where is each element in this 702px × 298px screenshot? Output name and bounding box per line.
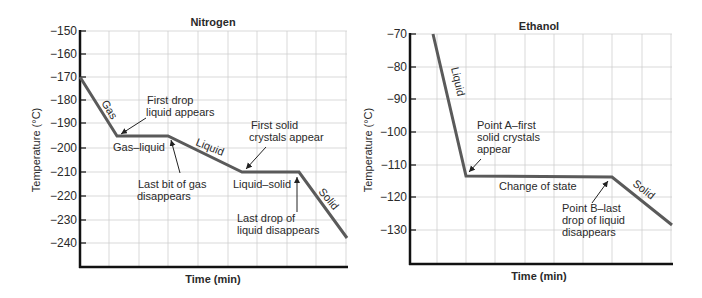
svg-text:−130: −130 xyxy=(380,223,407,237)
ethanol-y-tick-labels: −70 −80 −90 −100 −110 −120 −130 xyxy=(380,27,407,237)
svg-text:−160: −160 xyxy=(50,47,77,61)
svg-text:−170: −170 xyxy=(50,70,77,84)
ethanol-title: Ethanol xyxy=(519,20,559,32)
ethanol-x-label: Time (min) xyxy=(511,270,567,282)
annotation-first-drop-line1: First drop xyxy=(147,94,193,106)
annotation-last-gas-line2: disappears xyxy=(137,190,191,202)
phase-gas-label: Gas xyxy=(99,98,120,122)
annotation-first-solid-line1: First solid xyxy=(251,119,298,131)
annotation-last-liquid-line2: liquid disappears xyxy=(237,224,320,236)
arrow-last-gas xyxy=(171,140,180,173)
svg-text:−230: −230 xyxy=(50,213,77,227)
svg-text:−100: −100 xyxy=(380,125,407,139)
annotation-point-a-line3: appear xyxy=(477,143,512,155)
annotation-first-solid-line2: crystals appear xyxy=(249,131,324,143)
annotation-last-liquid-line1: Last drop of xyxy=(237,212,296,224)
svg-text:−70: −70 xyxy=(387,27,408,41)
change-of-state-label: Change of state xyxy=(499,180,577,192)
phase-liquid-label: Liquid xyxy=(194,136,226,158)
arrow-first-solid xyxy=(246,147,266,169)
ethanol-cooling-curve xyxy=(433,34,672,225)
nitrogen-title: Nitrogen xyxy=(190,16,236,28)
annotation-first-drop-line2: liquid appears xyxy=(146,106,215,118)
phase-gas-liquid-label: Gas–liquid xyxy=(113,141,165,153)
svg-text:−80: −80 xyxy=(387,60,408,74)
phase-liquid-label-ethanol: Liquid xyxy=(449,66,467,97)
svg-text:−180: −180 xyxy=(50,93,77,107)
nitrogen-y-label: Temperature (°C) xyxy=(30,108,42,192)
nitrogen-chart: −150 −160 −170 −180 −190 −200 −210 −220 … xyxy=(30,16,348,285)
phase-change-charts: −150 −160 −170 −180 −190 −200 −210 −220 … xyxy=(0,0,702,298)
svg-text:−120: −120 xyxy=(380,190,407,204)
annotation-point-a-line1: Point A–first xyxy=(477,119,536,131)
svg-text:−240: −240 xyxy=(50,236,77,250)
svg-text:−190: −190 xyxy=(50,116,77,130)
annotation-point-b-line2: drop of liquid xyxy=(562,214,625,226)
phase-liquid-solid-label: Liquid–solid xyxy=(233,178,291,190)
svg-text:−110: −110 xyxy=(381,158,407,172)
annotation-last-gas-line1: Last bit of gas xyxy=(138,178,207,190)
annotation-point-b-line3: disappears xyxy=(562,226,616,238)
ethanol-chart: −70 −80 −90 −100 −110 −120 −130 Ethanol … xyxy=(362,20,673,282)
phase-solid-label-ethanol: Solid xyxy=(631,177,658,202)
svg-text:−220: −220 xyxy=(50,189,77,203)
nitrogen-cooling-curve xyxy=(80,77,347,238)
svg-text:−90: −90 xyxy=(387,92,408,106)
annotation-point-b-line1: Point B–last xyxy=(562,202,621,214)
svg-text:−210: −210 xyxy=(50,165,77,179)
arrow-first-drop xyxy=(121,118,146,134)
ethanol-y-label: Temperature (°C) xyxy=(362,108,374,192)
nitrogen-x-label: Time (min) xyxy=(185,273,241,285)
svg-text:−200: −200 xyxy=(50,141,77,155)
arrow-point-a xyxy=(469,159,481,172)
svg-text:−150: −150 xyxy=(50,24,77,38)
annotation-point-a-line2: solid crystals xyxy=(477,131,540,143)
arrow-point-b xyxy=(592,181,608,203)
nitrogen-y-tick-labels: −150 −160 −170 −180 −190 −200 −210 −220 … xyxy=(50,24,77,250)
